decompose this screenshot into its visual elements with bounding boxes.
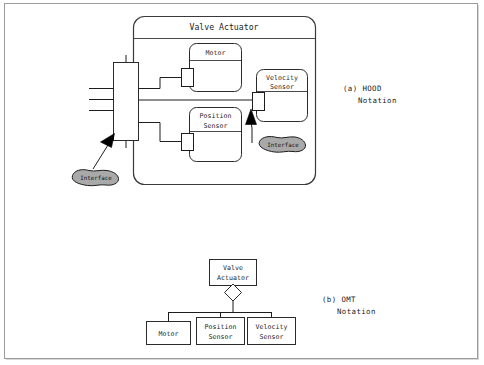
hood-motor-connector: [182, 69, 194, 87]
hood-outer-interface-arrowhead: [101, 134, 115, 148]
hood-valve-actuator-label: Valve Actuator: [189, 22, 258, 32]
omt-caption-line1: (b) OMT: [322, 295, 356, 304]
omt-aggregation-diamond-icon: [225, 284, 242, 301]
hood-interface-bar: [114, 63, 139, 141]
hood-notation-group: Valve Actuator Motor Posit: [72, 17, 397, 186]
hood-motor-label: Motor: [206, 49, 226, 57]
omt-valve-actuator-label-line2: Actuator: [217, 274, 249, 282]
hood-velocity-sensor-connector: [253, 93, 265, 111]
omt-valve-actuator-label-line1: Valve: [223, 264, 243, 272]
hood-position-sensor-label-line1: Position: [200, 112, 232, 120]
omt-velocity-sensor-label-line2: Sensor: [260, 333, 284, 341]
omt-position-sensor-label-line2: Sensor: [209, 333, 233, 341]
hood-velocity-sensor-label-line2: Sensor: [270, 83, 294, 91]
omt-velocity-sensor-label-line1: Velocity: [256, 323, 288, 331]
omt-position-sensor-label-line1: Position: [205, 323, 237, 331]
figure-page: Valve Actuator Motor Posit: [0, 0, 484, 365]
hood-position-sensor-connector: [182, 134, 194, 151]
hood-outer-interface-label: Interface: [80, 175, 112, 181]
hood-velocity-sensor-label-line1: Velocity: [266, 74, 298, 82]
hood-inner-interface-label: Interface: [267, 142, 299, 148]
omt-caption-line2: Notation: [337, 307, 376, 316]
hood-position-sensor-label-line2: Sensor: [204, 122, 228, 130]
hood-caption-line2: Notation: [358, 96, 397, 105]
omt-notation-group: Valve Actuator Motor Position Sensor Vel…: [147, 260, 376, 345]
hood-caption-line1: (a) HOOD: [343, 84, 382, 93]
notation-comparison-diagram: Valve Actuator Motor Posit: [0, 0, 484, 365]
omt-motor-label: Motor: [159, 330, 179, 338]
